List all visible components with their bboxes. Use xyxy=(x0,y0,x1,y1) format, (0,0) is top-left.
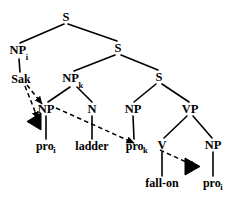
tree-node-np-left: NP xyxy=(38,103,55,116)
tree-node-np-obj: NP xyxy=(125,103,142,116)
tree-branch-s-low-vp xyxy=(162,84,189,102)
label-text: S xyxy=(156,70,163,84)
label-text: pro xyxy=(36,139,54,153)
tree-branch-vp-np-last xyxy=(193,116,212,138)
tree-branch-np-i-sak xyxy=(19,59,20,72)
tree-node-v: V xyxy=(157,139,166,152)
tree-branch-s-mid-np-k xyxy=(74,55,115,71)
tree-leaf-pro-i-2: proi xyxy=(203,177,223,189)
label-text: pro xyxy=(126,139,144,153)
label-text: NP xyxy=(205,138,222,152)
tree-node-vp: VP xyxy=(182,103,199,116)
tree-leaf-pro-i-1: proi xyxy=(36,140,56,152)
label-text: NP xyxy=(38,102,55,116)
syntax-tree-figure: SNPiSNPkSNPNNPVPVNP Sakproiladderprokfal… xyxy=(0,0,236,197)
tree-leaf-fall-on: fall-on xyxy=(145,177,178,189)
tree-branch-s-root-s-mid xyxy=(68,24,117,41)
label-subscript: i xyxy=(26,51,28,61)
tree-branch-s-low-np-obj xyxy=(134,84,156,102)
dashed-link-sak-to-triangle xyxy=(25,86,38,119)
tree-node-np-last: NP xyxy=(205,139,222,152)
triangle-right-icon xyxy=(185,158,200,175)
label-subscript: i xyxy=(53,145,55,155)
label-text: S xyxy=(115,41,122,55)
tree-branch-np-k-np-left xyxy=(48,87,70,102)
tree-node-s-low: S xyxy=(156,71,163,84)
tree-node-n: N xyxy=(87,103,96,116)
label-text: fall-on xyxy=(145,176,178,190)
tree-leaf-sak: Sak xyxy=(11,73,30,85)
label-text: S xyxy=(63,10,70,24)
label-text: pro xyxy=(203,176,221,190)
label-text: NP xyxy=(9,43,26,57)
label-text: NP xyxy=(62,71,79,85)
dashed-link-group xyxy=(25,85,197,167)
label-text: ladder xyxy=(75,139,108,153)
tree-node-s-mid: S xyxy=(115,42,122,55)
label-text: Sak xyxy=(11,72,30,86)
label-text: V xyxy=(157,138,166,152)
tree-leaf-pro-k: prok xyxy=(126,140,149,152)
label-subscript: i xyxy=(220,182,222,192)
tree-branch-np-obj-pro-k xyxy=(133,116,134,139)
tree-leaf-ladder: ladder xyxy=(75,140,108,152)
tree-node-s-root: S xyxy=(63,11,70,24)
label-text: VP xyxy=(182,102,199,116)
label-subscript: k xyxy=(78,79,83,89)
tree-branch-vp-v xyxy=(164,116,187,138)
label-text: NP xyxy=(125,102,142,116)
tree-edges-layer xyxy=(0,0,236,197)
tree-node-np-i: NPi xyxy=(9,44,28,59)
tree-branch-s-mid-s-low xyxy=(121,55,158,70)
label-text: N xyxy=(87,102,96,116)
label-subscript: k xyxy=(143,145,148,155)
tree-branch-s-root-np-i xyxy=(20,24,64,43)
tree-node-np-k: NPk xyxy=(62,72,83,87)
